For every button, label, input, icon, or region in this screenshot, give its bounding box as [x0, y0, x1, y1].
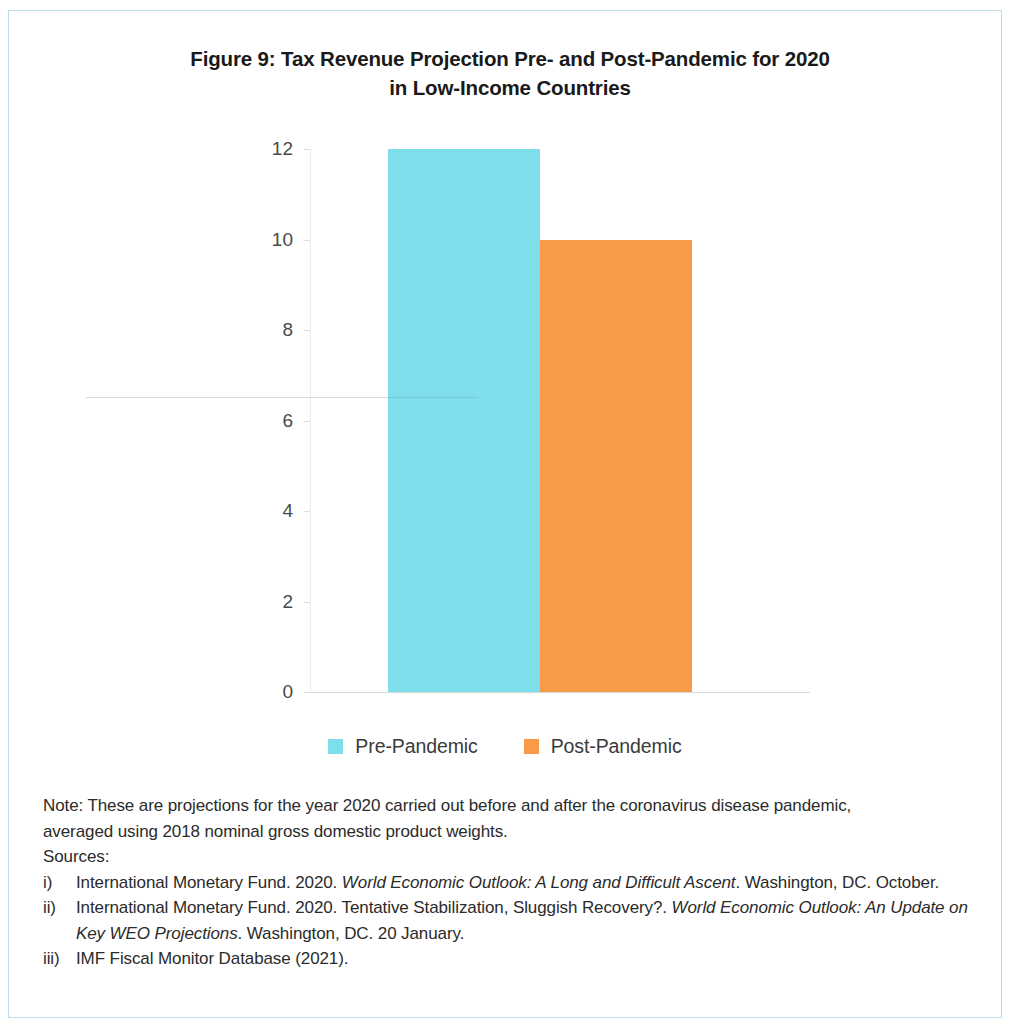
bar-group — [388, 149, 692, 692]
y-axis-tick-label: 0 — [282, 681, 293, 703]
source-marker: iii) — [43, 946, 73, 972]
source-item: i)International Monetary Fund. 2020. Wor… — [43, 870, 973, 896]
y-axis-tick: 4 — [304, 511, 310, 512]
y-axis-tick: 2 — [304, 602, 310, 603]
source-item: iii)IMF Fiscal Monitor Database (2021). — [43, 946, 973, 972]
figure-container: Figure 9: Tax Revenue Projection Pre- an… — [0, 0, 1010, 1026]
plot-area: 121086420 — [310, 149, 810, 693]
x-axis-baseline — [310, 692, 810, 693]
legend-label: Post-Pandemic — [551, 735, 682, 758]
sources-heading: Sources: — [43, 844, 973, 870]
y-axis-tick-label: 2 — [282, 591, 293, 613]
y-axis-tick: 6 — [304, 421, 310, 422]
figure-notes: Note: These are projections for the year… — [43, 793, 973, 972]
y-axis-tick: 0 — [304, 692, 310, 693]
legend-item: Post-Pandemic — [524, 735, 682, 758]
source-marker: i) — [43, 870, 73, 896]
source-text: International Monetary Fund. 2020. Tenta… — [76, 898, 672, 917]
y-axis-tick-label: 8 — [282, 319, 293, 341]
y-axis-tick: 8 — [304, 330, 310, 331]
source-text: International Monetary Fund. 2020. — [76, 873, 342, 892]
bar-post-pandemic — [540, 240, 692, 693]
y-axis-tick-label: 6 — [282, 410, 293, 432]
source-marker: ii) — [43, 895, 73, 921]
y-axis-line — [310, 149, 311, 693]
source-text: . Washington, DC. 20 January. — [238, 924, 465, 943]
note-line-1: Note: These are projections for the year… — [43, 793, 973, 819]
legend-swatch-icon — [524, 739, 539, 754]
source-text: IMF Fiscal Monitor Database (2021). — [76, 949, 348, 968]
figure-title-line-2: in Low-Income Countries — [105, 73, 915, 102]
legend-label: Pre-Pandemic — [355, 735, 477, 758]
bar-pre-pandemic — [388, 149, 540, 692]
source-text: . Washington, DC. October. — [735, 873, 939, 892]
legend-item: Pre-Pandemic — [328, 735, 477, 758]
source-item: ii)International Monetary Fund. 2020. Te… — [43, 895, 973, 946]
figure-title: Figure 9: Tax Revenue Projection Pre- an… — [105, 44, 915, 102]
y-axis-tick: 10 — [304, 240, 310, 241]
bar-chart: 121086420 — [0, 120, 1010, 720]
chart-legend: Pre-PandemicPost-Pandemic — [0, 735, 1010, 758]
figure-title-line-1: Figure 9: Tax Revenue Projection Pre- an… — [190, 47, 829, 70]
y-axis-tick: 12 — [304, 149, 310, 150]
y-axis-tick-label: 4 — [282, 500, 293, 522]
sources-list: i)International Monetary Fund. 2020. Wor… — [43, 870, 973, 972]
note-line-2: averaged using 2018 nominal gross domest… — [43, 819, 973, 845]
y-axis-tick-label: 12 — [272, 138, 293, 160]
source-title-italic: World Economic Outlook: A Long and Diffi… — [342, 873, 736, 892]
legend-swatch-icon — [328, 739, 343, 754]
y-axis-tick-label: 10 — [272, 229, 293, 251]
